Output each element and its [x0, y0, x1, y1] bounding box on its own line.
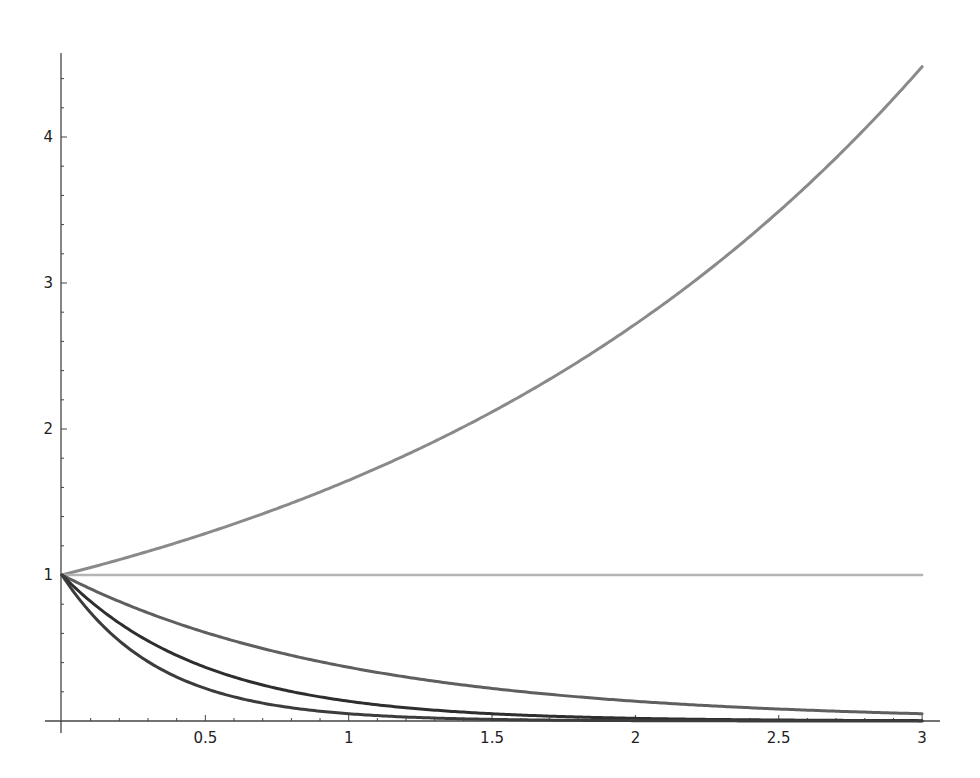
- series-line: [62, 575, 922, 714]
- x-tick-label: 1.5: [480, 729, 504, 747]
- x-tick-label: 2.5: [767, 729, 791, 747]
- x-tick-label: 2: [631, 729, 641, 747]
- chart: 0.511.522.53 1234: [0, 0, 980, 778]
- x-tick-label: 1: [344, 729, 354, 747]
- y-tick-label: 1: [43, 566, 53, 584]
- axes: [45, 53, 940, 733]
- series-line: [62, 575, 922, 721]
- y-tick-label: 3: [43, 274, 53, 292]
- y-axis-ticks: 1234: [43, 79, 67, 692]
- series-line: [62, 575, 922, 721]
- y-tick-label: 4: [43, 128, 53, 146]
- series-line: [62, 67, 922, 575]
- x-tick-label: 3: [917, 729, 927, 747]
- plot-lines: [62, 67, 922, 721]
- y-tick-label: 2: [43, 420, 53, 438]
- x-tick-label: 0.5: [193, 729, 217, 747]
